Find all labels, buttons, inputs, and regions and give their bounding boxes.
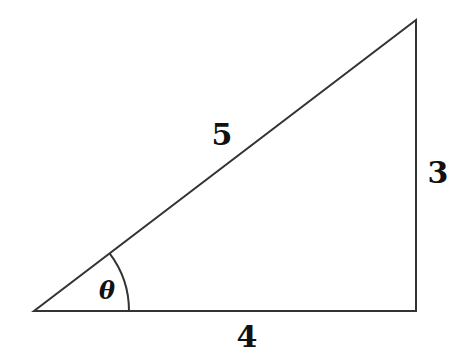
vertical-side-label: 3 bbox=[428, 155, 449, 190]
hypotenuse-label: 5 bbox=[212, 117, 233, 152]
triangle-diagram: 5 3 4 θ bbox=[0, 0, 471, 363]
base-label: 4 bbox=[237, 319, 258, 354]
right-triangle bbox=[34, 20, 416, 311]
angle-theta-label: θ bbox=[99, 276, 115, 305]
